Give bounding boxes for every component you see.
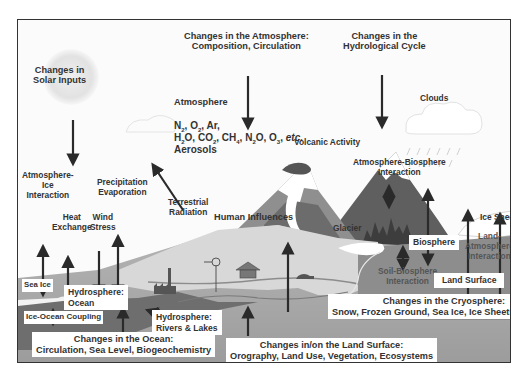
glacier-label: Glacier: [333, 223, 361, 233]
wind-stress-label: WindStress: [90, 212, 116, 232]
clouds-label: Clouds: [420, 93, 448, 103]
cloud-icon: [406, 102, 482, 134]
land-surface-box: Land Surface: [434, 273, 504, 288]
ice-sheet-label: Ice Sheet: [480, 212, 511, 222]
solar-inputs-label: Changes inSolar Inputs: [33, 65, 86, 85]
atmosphere-biosphere-interaction-label: Atmosphere-BiosphereInteraction: [353, 157, 446, 177]
land-atmosphere-interaction-label: Land-AtmosphereInteraction: [465, 231, 511, 261]
aerosols-label: Aerosols: [174, 144, 217, 156]
land-surface-changes-box: Changes in/on the Land Surface:Orography…: [226, 338, 437, 363]
heat-exchange-label: HeatExchange: [52, 212, 92, 232]
climate-system-diagram: Changes inSolar Inputs Changes in the At…: [17, 19, 511, 363]
precipitation-evaporation-label: PrecipitationEvaporation: [97, 177, 148, 197]
biosphere-box: Biosphere: [409, 235, 459, 250]
atmosphere-changes-label: Changes in the Atmosphere:Composition, C…: [184, 31, 309, 51]
soil-biosphere-interaction-label: Soil-BiosphereInteraction: [378, 266, 437, 286]
cryosphere-changes-box: Changes in the Cryosphere:Snow, Frozen G…: [328, 294, 511, 319]
human-influences-label: Human Influences: [214, 212, 293, 222]
volcanic-activity-label: Volcanic Activity: [294, 137, 360, 147]
ocean-changes-box: Changes in the Ocean:Circulation, Sea Le…: [32, 332, 215, 357]
hydrosphere-ocean-box: Hydrosphere:Ocean: [64, 285, 128, 310]
atmosphere-ice-interaction-label: Atmosphere-IceInteraction: [22, 170, 74, 200]
ice-ocean-coupling-label: Ice-Ocean Coupling: [24, 311, 103, 324]
sea-ice-label: Sea Ice: [22, 279, 53, 292]
terrestrial-radiation-label: TerrestrialRadiation: [168, 197, 208, 217]
hydrological-cycle-label: Changes in theHydrological Cycle: [343, 31, 426, 51]
atmosphere-label: Atmosphere: [174, 97, 228, 107]
